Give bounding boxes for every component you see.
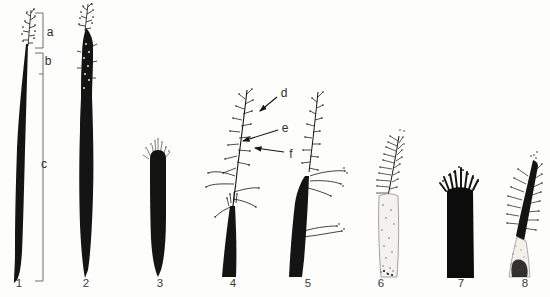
specimen-number-7: 7 xyxy=(458,278,464,290)
specimen-4-illustration xyxy=(206,89,259,277)
specimen-number-4: 4 xyxy=(230,278,236,290)
arrow-e xyxy=(243,130,278,141)
region-label-c: c xyxy=(41,158,47,170)
part-label-f: f xyxy=(289,148,292,160)
part-label-d: d xyxy=(281,87,288,99)
bracket-a xyxy=(35,13,43,48)
specimen-5-illustration xyxy=(289,92,347,277)
specimen-number-6: 6 xyxy=(378,278,384,290)
specimen-7-illustration xyxy=(440,167,478,278)
specimen-number-2: 2 xyxy=(83,278,89,290)
illustration-canvas xyxy=(0,0,550,297)
arrow-f xyxy=(255,148,284,152)
specimen-2-illustration xyxy=(77,3,97,278)
specimen-number-1: 1 xyxy=(16,278,22,290)
specimen-6-illustration xyxy=(376,130,404,277)
specimen-number-5: 5 xyxy=(305,278,311,290)
specimen-1-illustration xyxy=(14,9,35,283)
specimen-number-3: 3 xyxy=(157,278,163,290)
specimen-number-8: 8 xyxy=(522,278,528,290)
region-label-b: b xyxy=(45,55,52,67)
arrow-d xyxy=(260,97,277,111)
specimen-3-illustration xyxy=(143,139,170,277)
region-label-a: a xyxy=(47,26,54,38)
part-label-e: e xyxy=(282,122,289,134)
specimen-8-illustration xyxy=(507,152,542,277)
measurement-brackets xyxy=(35,13,43,281)
botanical-plate: a b c d e f 1 2 3 4 5 6 7 8 xyxy=(0,0,550,297)
